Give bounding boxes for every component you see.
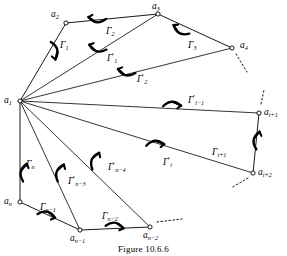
vertex-label-an: an <box>4 197 12 207</box>
curve-label-Gn3p: Γ′n−3 <box>68 177 86 187</box>
vertex-label-a2: a2 <box>51 10 59 20</box>
vertex-label-subscript: 3 <box>157 5 160 12</box>
polygon-edge-a1-a2 <box>20 23 66 101</box>
vertex-a2 <box>64 21 68 25</box>
figure-caption: Figure 10.6.6 <box>0 244 287 254</box>
curve-label-subscript: n−4 <box>115 166 125 173</box>
curve-label-G2: Γ2 <box>106 27 115 37</box>
vertex-label-an2: an−2 <box>143 231 158 241</box>
dashed-stubs <box>157 54 264 222</box>
curve-label-subscript: 2 <box>111 30 114 37</box>
polygon-edge-a2-a3 <box>66 14 158 23</box>
polygon-edge-an2-an1 <box>80 227 150 230</box>
curve-label-Gn4p: Γ′n−4 <box>108 163 126 173</box>
curve-label-G3: Γ3 <box>188 41 197 51</box>
curve-label-subscript: n−3 <box>75 180 85 187</box>
curve-label-subscript: n <box>31 163 34 170</box>
curve-label-Gn1: Γn−1 <box>40 203 56 213</box>
vertex-a3 <box>156 12 160 16</box>
curve-label-subscript: 2 <box>144 78 147 85</box>
curve-label-subscript: n−1 <box>45 206 55 213</box>
stub-ai2 <box>231 178 248 188</box>
vertex-label-subscript: 1 <box>9 99 12 106</box>
curve-label-Gip: Γ′i <box>163 158 172 168</box>
stub-a4 <box>236 54 247 72</box>
arrow-Gi1p-head <box>174 102 181 108</box>
vertex-label-subscript: i+1 <box>269 111 278 118</box>
diagonal-a1-ai2 <box>20 101 253 173</box>
figure-canvas <box>0 0 287 256</box>
vertex-an <box>18 200 22 204</box>
vertex-ai1 <box>257 111 261 115</box>
arrow-Gn4p <box>88 151 101 170</box>
curve-label-G1: Γ1 <box>60 41 69 51</box>
curve-label-Gn: Γn <box>26 160 35 170</box>
curve-label-subscript: n−2 <box>107 215 117 222</box>
arrow-Gn3p <box>54 163 67 182</box>
curve-label-subscript: i+1 <box>217 151 226 158</box>
vertex-a1 <box>18 99 22 103</box>
dots-an2 <box>157 219 182 222</box>
vertex-label-ai2: ai+2 <box>258 168 272 178</box>
vertex-ai2 <box>251 171 255 175</box>
stub-ai1 <box>261 90 264 104</box>
vertex-label-subscript: n−1 <box>75 237 85 244</box>
curve-label-subscript: i−1 <box>195 99 204 106</box>
arrow-Gn2-head <box>116 224 124 231</box>
arrow-Gi1 <box>252 131 262 150</box>
vertex-label-an1: an−1 <box>70 234 85 244</box>
orientation-arrows <box>19 14 262 230</box>
curve-label-subscript: 3 <box>193 44 196 51</box>
vertex-label-subscript: n <box>9 200 12 207</box>
curve-label-Gi1: Γi+1 <box>212 148 226 158</box>
vertex-label-a3: a3 <box>152 2 160 12</box>
vertex-an2 <box>148 225 152 229</box>
vertex-a4 <box>230 46 234 50</box>
curve-label-G1p: Γ′1 <box>107 54 117 64</box>
arrow-Gi1-head <box>255 131 262 139</box>
curve-label-subscript: 1 <box>65 44 68 51</box>
curve-label-G2p: Γ′2 <box>137 75 147 85</box>
vertex-label-subscript: i+2 <box>263 171 272 178</box>
vertex-an1 <box>78 228 82 232</box>
vertex-label-subscript: n−2 <box>148 234 158 241</box>
vertex-label-a4: a4 <box>240 41 248 51</box>
arrow-G1p-head <box>88 42 96 50</box>
curve-label-subscript: i <box>170 161 172 168</box>
vertex-label-a1: a1 <box>4 96 12 106</box>
vertex-label-subscript: 2 <box>56 13 59 20</box>
arrow-Gi1p <box>163 101 181 109</box>
vertex-label-subscript: 4 <box>245 44 248 51</box>
curve-label-subscript: 1 <box>114 57 117 64</box>
figure-container: a1a2a3a4ai+1ai+2an−2an−1anΓ1Γ2Γ3Γ′1Γ′2Γ′… <box>0 0 287 256</box>
diagonal-a1-a3 <box>20 14 158 101</box>
curve-label-Gi1p: Γ′i−1 <box>188 96 204 106</box>
diagonal-a1-ai1 <box>20 101 259 113</box>
vertex-label-ai1: ai+1 <box>264 108 278 118</box>
arrow-Gn2 <box>105 221 124 230</box>
arrow-G2p-head <box>117 67 125 75</box>
curve-label-Gn2: Γn−2 <box>102 212 118 222</box>
